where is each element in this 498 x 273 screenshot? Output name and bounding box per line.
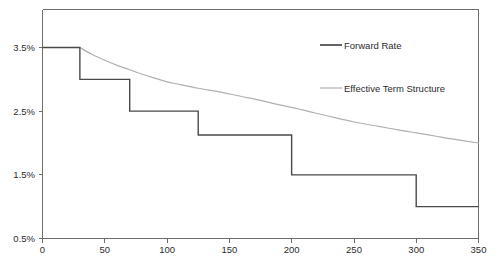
y-tick-label: 3.5% — [13, 42, 35, 53]
y-tick-label: 2.5% — [13, 106, 35, 117]
x-tick-label: 0 — [40, 244, 45, 255]
legend-label-effective-term-structure: Effective Term Structure — [344, 83, 445, 94]
x-tick-label: 100 — [159, 244, 175, 255]
x-tick-label: 350 — [471, 244, 487, 255]
legend-label-forward-rate: Forward Rate — [344, 40, 402, 51]
x-tick-label: 250 — [346, 244, 362, 255]
x-tick-label: 200 — [284, 244, 300, 255]
x-tick-label: 50 — [100, 244, 111, 255]
chart-background — [0, 0, 498, 273]
x-tick-label: 150 — [221, 244, 237, 255]
x-tick-label: 300 — [408, 244, 424, 255]
forward-rate-term-structure-chart: 3.5% 2.5% 1.5% 0.5% 0 50 100 150 200 250… — [0, 0, 498, 273]
y-tick-label: 1.5% — [13, 169, 35, 180]
chart-container: 3.5% 2.5% 1.5% 0.5% 0 50 100 150 200 250… — [0, 0, 498, 273]
y-tick-label: 0.5% — [13, 233, 35, 244]
